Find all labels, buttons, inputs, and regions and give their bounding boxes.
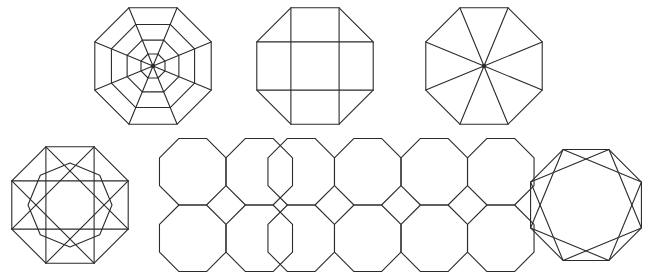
figure-sheet: Octagonal dissection and tiling figures (0, 0, 654, 275)
center-dot (151, 64, 154, 67)
sheet-background (0, 0, 654, 275)
center-dot (482, 64, 485, 67)
